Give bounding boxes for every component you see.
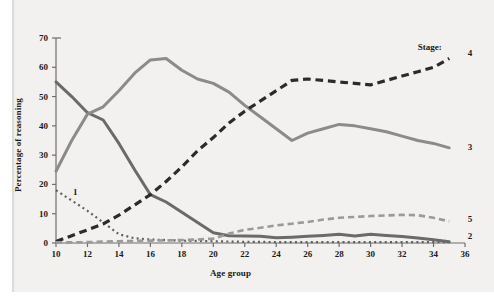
x-tick-label: 18: [177, 249, 186, 259]
series-label-2: 2: [468, 231, 473, 241]
y-tick-label: 20: [28, 179, 48, 189]
y-tick-label: 60: [28, 62, 48, 72]
series-label-5: 5: [468, 214, 473, 224]
series-label-3: 3: [468, 142, 473, 152]
x-tick-label: 12: [83, 249, 92, 259]
x-tick-label: 30: [366, 249, 375, 259]
y-axis-title: Percentage of reasoning: [13, 90, 23, 200]
x-tick-label: 32: [398, 249, 407, 259]
y-tick-label: 0: [28, 238, 48, 248]
y-tick-label: 40: [28, 121, 48, 131]
series-line-3: [56, 59, 449, 172]
y-tick-label: 10: [28, 209, 48, 219]
x-tick-label: 22: [240, 249, 249, 259]
x-axis-title: Age group: [210, 268, 251, 278]
series-label-4: 4: [468, 48, 473, 58]
x-tick-label: 28: [335, 249, 344, 259]
x-tick-label: 34: [429, 249, 438, 259]
y-tick-label: 70: [28, 33, 48, 43]
y-tick-label: 50: [28, 92, 48, 102]
x-tick-label: 10: [52, 249, 61, 259]
x-tick-label: 24: [272, 249, 281, 259]
x-tick-label: 20: [209, 249, 218, 259]
y-tick-label: 30: [28, 150, 48, 160]
x-tick-label: 14: [114, 249, 123, 259]
x-tick-label: 36: [461, 249, 470, 259]
x-tick-label: 16: [146, 249, 155, 259]
series-label-1: 1: [73, 187, 78, 197]
stage-legend-caption: Stage:: [418, 42, 442, 52]
chart-figure: Percentage of reasoning Age group Stage:…: [0, 0, 494, 306]
x-tick-label: 26: [303, 249, 312, 259]
